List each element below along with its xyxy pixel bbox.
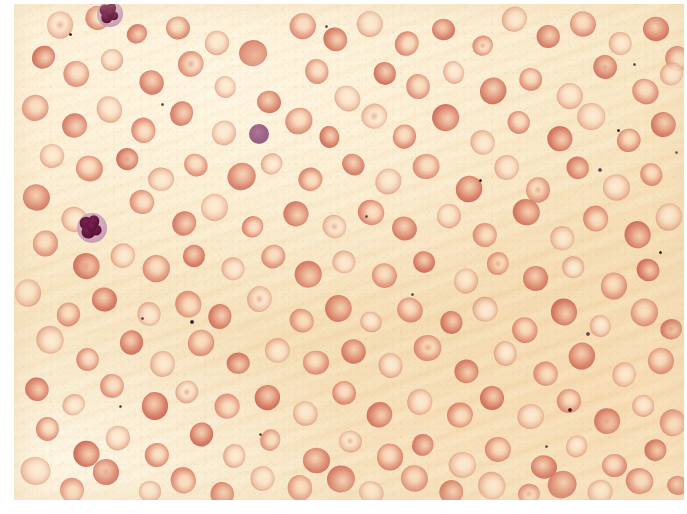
platelet-speck	[69, 33, 72, 36]
platelet-speck	[659, 251, 662, 254]
platelet-speck	[190, 320, 194, 324]
platelet-speck	[411, 293, 414, 296]
micrograph-figure	[0, 0, 687, 514]
red-blood-cell	[659, 409, 684, 437]
red-blood-cell	[59, 477, 85, 500]
platelet-speck	[675, 151, 678, 154]
nucleus-lobe	[106, 9, 115, 18]
platelet-speck	[633, 63, 636, 66]
platelet-speck	[479, 179, 482, 182]
platelet-speck	[545, 445, 548, 448]
platelet-speck	[586, 332, 590, 336]
platelet-speck	[141, 317, 144, 320]
platelet-speck	[259, 433, 262, 436]
microscope-field	[14, 4, 684, 500]
lymphocyte	[249, 124, 269, 144]
platelet-speck	[325, 25, 328, 28]
platelet-speck	[598, 168, 602, 172]
platelet-speck	[119, 405, 122, 408]
platelet-speck	[365, 215, 368, 218]
platelet-speck	[617, 129, 620, 132]
platelet-speck	[568, 408, 572, 412]
red-blood-cell	[139, 481, 162, 500]
red-blood-cell	[15, 279, 41, 307]
white-blood-cell-neutrophil	[77, 213, 107, 243]
platelet-speck	[161, 103, 164, 106]
